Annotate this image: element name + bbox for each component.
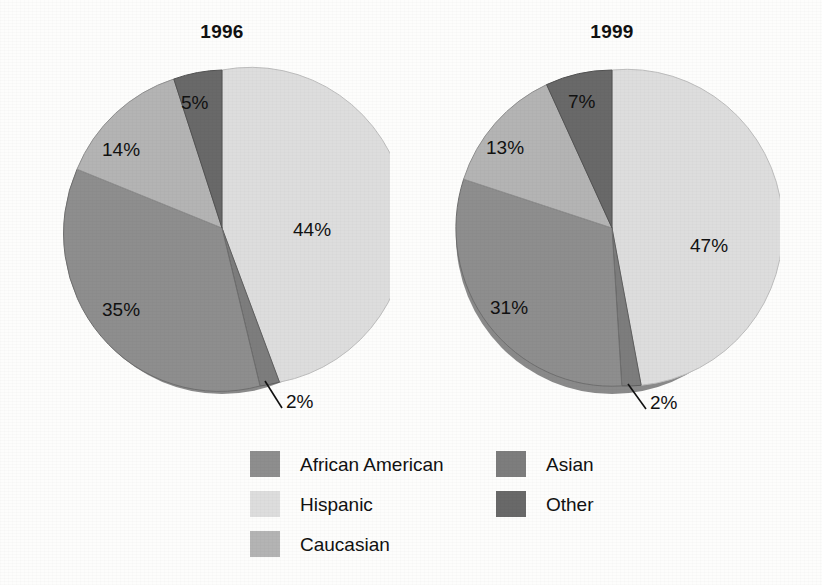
legend-item-other: Other (496, 484, 594, 524)
legend-item-african-american: African American (250, 444, 444, 484)
legend-label-other: Other (546, 495, 594, 514)
pie-slice-hispanic-1999 (612, 69, 780, 385)
pie-label-african-american-1999: 31% (490, 297, 528, 318)
legend-swatch-asian (496, 451, 526, 477)
pie-label-other-1996: 5% (181, 92, 209, 113)
legend-label-hispanic: Hispanic (300, 495, 373, 514)
pie-label-asian-1996: 2% (286, 391, 314, 411)
pie-chart-figure: 1996 1999 44% 35% (0, 0, 822, 585)
pie-label-other-1999: 7% (568, 91, 596, 112)
legend-item-asian: Asian (496, 444, 594, 484)
pie-slices-1999 (456, 69, 780, 386)
pie-label-caucasian-1996: 14% (102, 139, 140, 160)
pie-label-african-american-1996: 35% (102, 299, 140, 320)
legend-swatch-other (496, 491, 526, 517)
pie-chart-1996: 44% 35% 14% 5% 2% (60, 56, 390, 411)
pie-label-hispanic-1999: 47% (690, 235, 728, 256)
legend-column-right: Asian Other (496, 444, 594, 524)
legend-swatch-african-american (250, 451, 280, 477)
legend-item-hispanic: Hispanic (250, 484, 444, 524)
pie-label-caucasian-1999: 13% (486, 137, 524, 158)
legend-swatch-caucasian (250, 531, 280, 557)
legend-item-caucasian: Caucasian (250, 524, 444, 564)
legend-label-african-american: African American (300, 455, 444, 474)
chart-title-1996: 1996 (142, 21, 302, 43)
pie-label-hispanic-1996: 44% (293, 219, 331, 240)
pie-label-asian-1999: 2% (650, 392, 678, 411)
legend-label-asian: Asian (546, 455, 594, 474)
chart-title-1999: 1999 (532, 21, 692, 43)
legend-column-left: African American Hispanic Caucasian (250, 444, 444, 564)
legend-label-caucasian: Caucasian (300, 535, 390, 554)
legend-swatch-hispanic (250, 491, 280, 517)
pie-slices-1996 (64, 67, 390, 391)
pie-chart-1999: 47% 31% 13% 7% 2% (450, 56, 780, 411)
